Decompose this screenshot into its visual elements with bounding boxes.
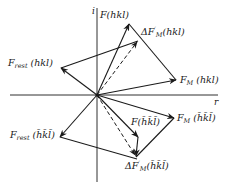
label-main: F: [177, 112, 184, 123]
label-f-rest-hkl: Frest (hkl): [8, 58, 53, 70]
label-f-rest-bar: Frest (h̄k̄l̄): [10, 130, 55, 142]
real-axis-label: r: [214, 98, 218, 107]
vector-f-rest-hkl: [61, 68, 97, 95]
line-fbar-to-delta: [136, 137, 138, 156]
label-main: F: [100, 9, 107, 20]
vector-delta-f-bar-dashed: [97, 95, 135, 155]
label-args: (h̄k̄l̄): [146, 160, 168, 171]
label-main: F: [10, 129, 17, 140]
label-main: F: [180, 74, 187, 85]
line-rest-to-point: [61, 41, 138, 68]
vector-diagram: [0, 0, 230, 191]
label-sub: rest: [15, 62, 28, 70]
label-f-bar: F(h̄k̄l̄): [131, 117, 160, 127]
label-args: (hkl): [196, 74, 218, 85]
label-delta-f-bar: ΔF′M(h̄k̄l̄): [125, 160, 169, 173]
label-delta-f-hkl: ΔF′M(hkl): [141, 26, 185, 39]
label-main: F: [8, 57, 15, 68]
label-args: (h̄k̄l̄): [193, 112, 215, 123]
label-args: (hkl): [162, 26, 184, 37]
label-args: (hkl): [31, 57, 53, 68]
vector-f-hkl: [97, 24, 129, 95]
label-args: (h̄k̄l̄): [33, 129, 55, 140]
label-sub: M: [184, 117, 191, 125]
label-main: F: [131, 116, 138, 127]
label-f-m-hkl: FM (hkl): [180, 75, 219, 87]
origin-point: [95, 93, 98, 96]
vector-f-rest-bar: [60, 95, 97, 137]
label-sub: rest: [17, 134, 30, 142]
imag-axis-label: i: [92, 7, 95, 16]
label-sub: M: [187, 79, 194, 87]
label-f-hkl: F(hkl): [100, 10, 129, 20]
label-main: ΔF: [125, 160, 138, 171]
label-f-m-bar: FM (h̄k̄l̄): [177, 113, 216, 125]
vector-f-m-hkl: [97, 80, 176, 95]
label-main: ΔF: [141, 26, 154, 37]
label-args: (h̄k̄l̄): [138, 116, 160, 127]
label-args: (hkl): [107, 9, 129, 20]
